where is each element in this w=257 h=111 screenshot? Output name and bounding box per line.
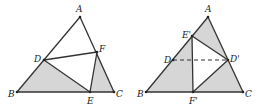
vertex-a [207, 16, 210, 19]
vertex-label-d: D [33, 54, 41, 64]
vertex-e [89, 91, 92, 94]
vertex-e-prime [191, 35, 194, 38]
figure-original-triangle: ABCDEF [7, 4, 123, 106]
shaded-region-b-d-e [17, 60, 90, 92]
vertex-label-f-prime: F' [188, 96, 198, 106]
vertex-label-a: A [75, 4, 83, 14]
vertex-label-b: B [136, 89, 144, 99]
vertex-label-e: E [86, 96, 94, 106]
vertex-label-b: B [7, 89, 15, 99]
vertex-b [145, 91, 148, 94]
vertex-label-d-prime: D' [229, 54, 240, 64]
figure-folded-triangle: ABCDE'D'F' [136, 4, 252, 106]
vertex-label-a: A [204, 4, 212, 14]
vertex-f-prime [192, 91, 195, 94]
segment-d-f [44, 52, 97, 60]
vertex-d [172, 59, 175, 62]
vertex-label-f: F [98, 44, 106, 54]
vertex-f [96, 51, 99, 54]
vertex-label-e-prime: E' [181, 30, 191, 40]
vertex-label-c: C [116, 89, 123, 99]
vertex-a [79, 16, 82, 19]
vertex-d-prime [227, 59, 230, 62]
vertex-label-c: C [245, 89, 252, 99]
diagram-canvas: ABCDEF ABCDE'D'F' [0, 0, 257, 111]
vertex-d [43, 59, 46, 62]
shaded-region-e-prime-a-d-prime [192, 17, 228, 60]
vertex-label-d: D [163, 55, 171, 65]
vertex-b [16, 91, 19, 94]
vertex-c [113, 91, 116, 94]
vertex-c [242, 91, 245, 94]
